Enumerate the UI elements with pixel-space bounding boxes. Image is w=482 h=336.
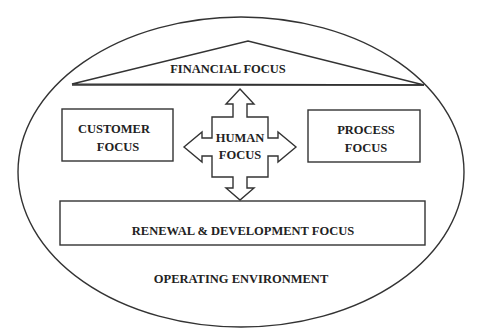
human-focus-label-line1: HUMAN xyxy=(216,131,265,145)
financial-focus-label: FINANCIAL FOCUS xyxy=(170,62,286,76)
renewal-development-box xyxy=(60,201,425,245)
diagram-canvas: FINANCIAL FOCUS CUSTOMER FOCUS PROCESS F… xyxy=(0,0,482,336)
customer-focus-label-line1: CUSTOMER xyxy=(78,122,151,136)
process-focus-label-line2: FOCUS xyxy=(345,141,387,155)
process-focus-label-line1: PROCESS xyxy=(337,123,395,137)
focus-model-diagram: FINANCIAL FOCUS CUSTOMER FOCUS PROCESS F… xyxy=(0,0,482,336)
operating-environment-label: OPERATING ENVIRONMENT xyxy=(154,272,329,286)
customer-focus-label-line2: FOCUS xyxy=(97,140,139,154)
renewal-development-label: RENEWAL & DEVELOPMENT FOCUS xyxy=(132,224,354,238)
human-focus-label-line2: FOCUS xyxy=(219,148,261,162)
